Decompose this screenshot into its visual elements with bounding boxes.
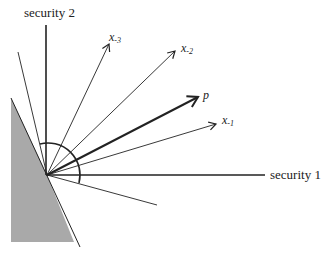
y-axis-label: security 2: [24, 5, 75, 21]
label-x-2: x-2: [181, 41, 193, 56]
label-p: p: [203, 88, 209, 103]
vector-x-2: [47, 51, 175, 175]
diagram-canvas: [0, 0, 326, 258]
label-x-3: x-3: [109, 30, 121, 45]
x-axis-label: security 1: [270, 167, 321, 183]
diagram: security 2 security 1 x-3 x-2 p x-1: [0, 0, 326, 258]
vector-x-3: [47, 44, 109, 175]
label-x-1: x-1: [222, 113, 234, 128]
ray-lower: [47, 175, 157, 205]
